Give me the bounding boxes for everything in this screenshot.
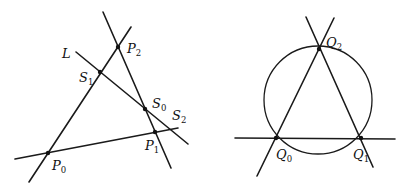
point-p1 [153,130,157,134]
line-q0-q1 [235,138,395,139]
label-p0: P0 [51,158,66,175]
point-q2 [317,47,321,51]
right-figure: Q2 Q0 Q1 [235,17,395,176]
point-q1 [359,136,363,140]
label-q2: Q2 [326,35,342,52]
label-q1: Q1 [353,147,369,164]
line-q2-q1 [306,17,373,167]
label-L: L [61,46,71,61]
label-s1: S1 [79,70,93,87]
line-q0-q2 [257,18,334,176]
diagram-canvas: L P2 S1 S0 S2 P1 P0 Q2 Q0 Q1 [0,0,409,189]
label-s2: S2 [172,108,186,125]
line-L [76,52,188,144]
point-p0 [46,151,50,155]
point-s1 [98,70,102,74]
left-figure: L P2 S1 S0 S2 P1 P0 [15,12,188,182]
point-s0 [143,107,147,111]
point-q0 [274,136,278,140]
label-p1: P1 [144,138,159,155]
line-p2-p1 [103,12,171,168]
line-p0-p2 [29,27,131,182]
label-p2: P2 [126,41,141,58]
label-q0: Q0 [276,147,292,164]
point-p2 [116,45,120,49]
label-s0: S0 [152,96,166,113]
